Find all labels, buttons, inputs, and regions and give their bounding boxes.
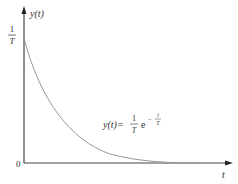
x-axis-label: t xyxy=(222,169,225,180)
formula-base: e xyxy=(141,119,146,130)
origin-label: 0 xyxy=(16,159,21,169)
formula: y(t)= 1 T e − t T xyxy=(102,112,161,135)
formula-lhs: y(t)= xyxy=(102,119,124,131)
decay-curve xyxy=(24,38,200,163)
formula-frac-den: T xyxy=(132,126,137,135)
y-axis-arrow-icon xyxy=(22,6,27,14)
formula-frac-num: 1 xyxy=(132,114,136,123)
formula-exp-num: t xyxy=(157,112,159,118)
y-tick-denominator: T xyxy=(9,36,15,46)
y-tick-numerator: 1 xyxy=(10,24,15,34)
exponential-decay-diagram: y(t) 1 T 0 t y(t)= 1 T e − t T xyxy=(0,0,238,184)
formula-exp-sign: − xyxy=(148,116,152,124)
y-axis-label: y(t) xyxy=(29,8,45,20)
x-axis-arrow-icon xyxy=(225,161,233,166)
formula-exp-den: T xyxy=(156,120,160,126)
